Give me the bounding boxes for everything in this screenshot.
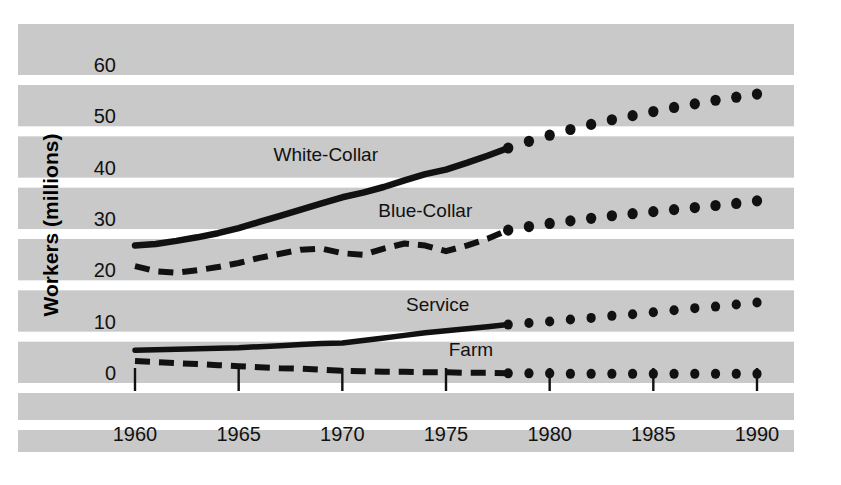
projected-point: [752, 298, 761, 308]
xtick-label-1965: 1965: [216, 423, 261, 445]
projected-point: [627, 208, 637, 219]
projected-point: [752, 369, 761, 379]
projected-point: [524, 136, 534, 147]
projected-point: [628, 309, 637, 319]
projected-point: [607, 311, 616, 321]
projected-point: [669, 369, 678, 379]
series-white-collar: White-Collar: [135, 89, 762, 246]
xtick-label-1970: 1970: [320, 423, 365, 445]
series-label-blue-collar: Blue-Collar: [378, 200, 473, 221]
projected-point: [711, 302, 720, 312]
ytick-label-60: 60: [94, 54, 116, 76]
xtick-label-1960: 1960: [113, 423, 158, 445]
projected-point: [710, 95, 720, 106]
projected-point: [566, 369, 575, 379]
projected-point: [690, 98, 700, 109]
series-label-white-collar: White-Collar: [273, 144, 378, 165]
projected-point: [627, 110, 637, 121]
projected-point: [711, 369, 720, 379]
projected-point: [690, 303, 699, 313]
projected-point: [732, 300, 741, 310]
ytick-label-30: 30: [94, 208, 116, 230]
chart-panel: 0102030405060Workers (millions)196019651…: [18, 24, 794, 452]
projected-point: [731, 198, 741, 209]
projected-point: [752, 89, 762, 100]
projected-point: [710, 200, 720, 211]
projected-point: [566, 314, 575, 324]
projected-point: [732, 369, 741, 379]
projection-start-point: [503, 225, 513, 236]
gridline-60: [18, 75, 794, 85]
projected-point: [649, 369, 658, 379]
ytick-label-10: 10: [94, 311, 116, 333]
employment-trends-chart: 0102030405060Workers (millions)196019651…: [18, 24, 794, 452]
projected-point: [586, 119, 596, 130]
series-label-service: Service: [406, 294, 469, 315]
projected-point: [649, 307, 658, 317]
projected-point: [545, 130, 555, 141]
projected-point: [690, 202, 700, 213]
projected-point: [524, 221, 534, 232]
historical-line: [135, 361, 508, 373]
projected-point: [607, 210, 617, 221]
projected-point: [545, 317, 554, 327]
projected-point: [648, 206, 658, 217]
projected-point: [565, 124, 575, 135]
y-axis-title: Workers (millions): [39, 134, 62, 317]
projected-point: [524, 368, 533, 378]
projected-point: [524, 318, 533, 328]
ytick-label-0: 0: [105, 362, 116, 384]
projected-point: [586, 213, 596, 224]
ytick-label-20: 20: [94, 259, 116, 281]
projected-point: [607, 114, 617, 125]
plot-area: 0102030405060Workers (millions)196019651…: [18, 24, 794, 452]
xtick-label-1975: 1975: [424, 423, 469, 445]
projected-point: [565, 215, 575, 226]
series-label-farm: Farm: [449, 339, 493, 360]
projected-point: [669, 204, 679, 215]
projected-point: [587, 369, 596, 379]
gridline-30: [18, 229, 794, 239]
projected-point: [628, 369, 637, 379]
projected-point: [545, 368, 554, 378]
chart-page: 0102030405060Workers (millions)196019651…: [0, 0, 841, 485]
projection-start-point: [504, 320, 513, 330]
ytick-label-40: 40: [94, 157, 116, 179]
projected-point: [752, 195, 762, 206]
projected-point: [607, 369, 616, 379]
projected-point: [669, 305, 678, 315]
xtick-label-1985: 1985: [631, 423, 676, 445]
gridline-20: [18, 280, 794, 290]
xtick-label-1990: 1990: [735, 423, 780, 445]
xtick-label-1980: 1980: [527, 423, 572, 445]
projected-point: [648, 106, 658, 117]
projection-start-point: [503, 142, 513, 153]
projected-point: [690, 369, 699, 379]
projection-start-point: [504, 368, 513, 378]
projected-point: [587, 313, 596, 323]
ytick-label-50: 50: [94, 105, 116, 127]
projected-point: [669, 102, 679, 113]
gridline-50: [18, 126, 794, 136]
projected-point: [545, 218, 555, 229]
projected-point: [731, 92, 741, 103]
